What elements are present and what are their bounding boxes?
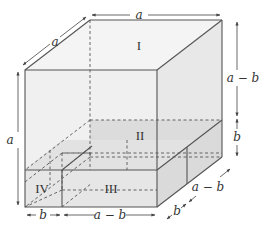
dim-right-upper: a − b (227, 71, 260, 85)
region-iii-label: III (105, 181, 118, 196)
region-iv-label: IV (35, 181, 49, 196)
dim-bottom-right: a − b (94, 208, 127, 222)
region-ii-label: II (136, 128, 145, 143)
region-i-label: I (137, 38, 141, 53)
dim-right-lower: b (233, 130, 241, 144)
dim-diag-back: a − b (192, 180, 225, 194)
dim-bottom-left: b (39, 208, 47, 222)
dim-left-height: a (6, 133, 13, 147)
dim-top-width: a (135, 8, 142, 22)
dim-top-depth: a (51, 35, 58, 49)
dim-diag-front: b (173, 204, 181, 218)
cube-diagram: I II III IV a a a (0, 0, 260, 230)
